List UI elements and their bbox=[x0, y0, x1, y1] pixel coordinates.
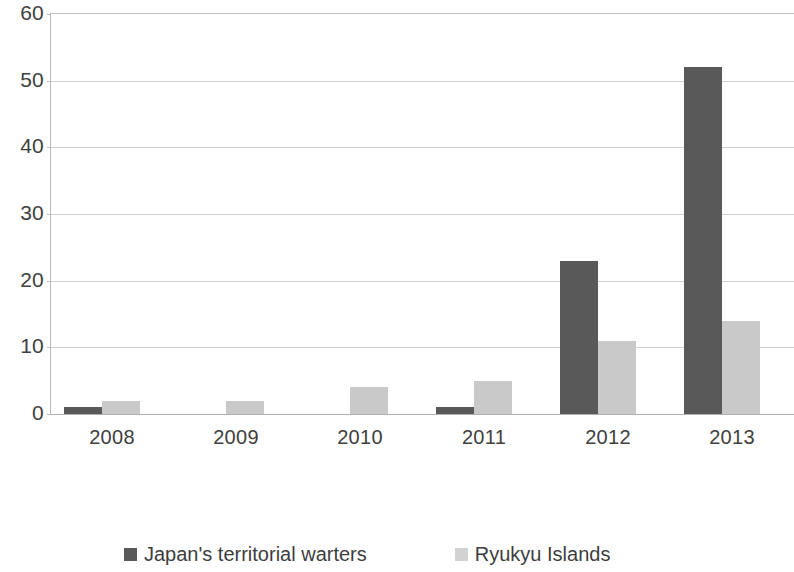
bar bbox=[102, 401, 140, 414]
bar bbox=[64, 407, 102, 414]
bar bbox=[350, 387, 388, 414]
y-axis-tick-label: 50 bbox=[0, 69, 44, 90]
bar bbox=[474, 381, 512, 414]
y-axis-tick-label: 40 bbox=[0, 135, 44, 156]
legend-swatch-icon bbox=[124, 548, 137, 561]
x-axis-tick-labels: 200820092010201120122013 bbox=[50, 424, 794, 454]
legend-item[interactable]: Ryukyu Islands bbox=[455, 542, 611, 566]
bar bbox=[598, 341, 636, 414]
y-axis-tick-label: 60 bbox=[0, 2, 44, 23]
x-axis-tick-label: 2008 bbox=[50, 424, 174, 450]
x-axis-tick-label: 2012 bbox=[546, 424, 670, 450]
y-axis-tick-mark bbox=[47, 414, 51, 415]
x-axis-tick-label: 2010 bbox=[298, 424, 422, 450]
x-axis-tick-label: 2011 bbox=[422, 424, 546, 450]
bar bbox=[560, 261, 598, 414]
plot-area bbox=[50, 13, 794, 415]
bar-chart: 0102030405060 200820092010201120122013 J… bbox=[0, 0, 794, 572]
x-axis-tick-label: 2009 bbox=[174, 424, 298, 450]
y-axis-tick-labels: 0102030405060 bbox=[0, 0, 44, 430]
y-axis-tick-label: 20 bbox=[0, 269, 44, 290]
bar bbox=[684, 67, 722, 414]
legend-swatch-icon bbox=[455, 548, 468, 561]
y-axis-tick-label: 0 bbox=[0, 402, 44, 423]
y-axis-tick-label: 30 bbox=[0, 202, 44, 223]
legend-label: Japan's territorial warters bbox=[144, 542, 367, 566]
legend-label: Ryukyu Islands bbox=[475, 542, 611, 566]
x-axis-tick-label: 2013 bbox=[670, 424, 794, 450]
bars-layer bbox=[51, 14, 794, 414]
y-axis-tick-label: 10 bbox=[0, 335, 44, 356]
bar bbox=[226, 401, 264, 414]
legend-item[interactable]: Japan's territorial warters bbox=[124, 542, 367, 566]
chart-legend: Japan's territorial wartersRyukyu Island… bbox=[0, 537, 794, 571]
bar bbox=[722, 321, 760, 414]
bar bbox=[436, 407, 474, 414]
